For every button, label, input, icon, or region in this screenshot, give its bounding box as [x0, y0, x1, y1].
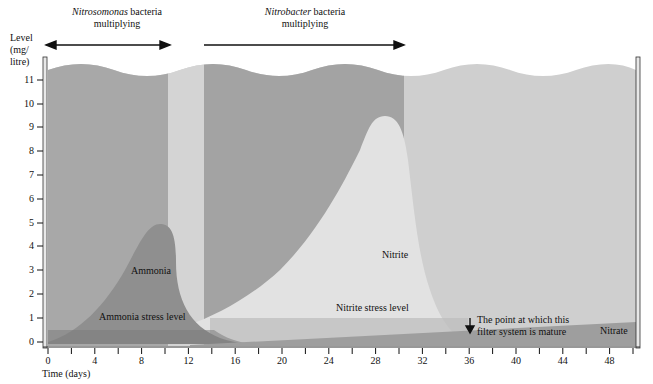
x-tick-32: 32 — [410, 356, 434, 366]
y-tick-7: 7 — [12, 170, 34, 180]
y-tick-2: 2 — [12, 289, 34, 299]
x-tick-16: 16 — [223, 356, 247, 366]
mature-line1: The point at which this — [477, 314, 569, 326]
x-tick-40: 40 — [504, 356, 528, 366]
nitrobacter-arrow — [204, 41, 404, 49]
mature-line2: filter system is mature — [477, 326, 569, 338]
y-tick-0: 0 — [12, 337, 34, 347]
x-tick-36: 36 — [457, 356, 481, 366]
x-tick-4: 4 — [83, 356, 107, 366]
nitrate-label: Nitrate — [600, 325, 628, 337]
nitrite-label: Nitrite — [382, 249, 408, 261]
x-axis-title: Time (days) — [42, 368, 90, 380]
y-tick-10: 10 — [12, 99, 34, 109]
x-axis-ticks — [48, 348, 633, 354]
x-tick-0: 0 — [36, 356, 60, 366]
tank-left-wall — [43, 57, 47, 348]
y-tick-9: 9 — [12, 122, 34, 132]
x-tick-20: 20 — [270, 356, 294, 366]
nitrite-stress-label: Nitrite stress level — [336, 302, 409, 314]
y-tick-6: 6 — [12, 194, 34, 204]
y-tick-5: 5 — [12, 218, 34, 228]
x-tick-12: 12 — [176, 356, 200, 366]
y-tick-11: 11 — [12, 75, 34, 85]
y-tick-4: 4 — [12, 241, 34, 251]
x-tick-44: 44 — [551, 356, 575, 366]
ammonia-stress-label: Ammonia stress level — [99, 311, 186, 323]
y-tick-1: 1 — [12, 313, 34, 323]
y-tick-8: 8 — [12, 146, 34, 156]
tank-right-wall — [636, 57, 640, 348]
x-tick-8: 8 — [130, 356, 154, 366]
y-tick-3: 3 — [12, 265, 34, 275]
ammonia-label: Ammonia — [131, 265, 171, 277]
x-tick-24: 24 — [317, 356, 341, 366]
y-axis-ticks — [37, 80, 43, 342]
x-tick-48: 48 — [598, 356, 622, 366]
nitrosomonas-arrow — [46, 41, 170, 49]
mature-annotation: The point at which this filter system is… — [477, 314, 569, 338]
x-tick-28: 28 — [364, 356, 388, 366]
